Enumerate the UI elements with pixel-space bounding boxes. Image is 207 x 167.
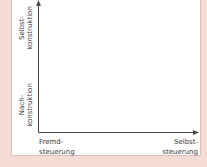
label-line: konstruktion bbox=[26, 83, 34, 127]
y-axis-label-selbstkonstruktion: Selbst- konstruktion bbox=[18, 6, 34, 50]
y-axis-arrowhead bbox=[36, 0, 41, 6]
label-line: Fremd- bbox=[39, 137, 75, 147]
label-line: konstruktion bbox=[26, 6, 34, 50]
x-axis-label-fremdsteuerung: Fremd- steuerung bbox=[39, 137, 75, 157]
x-axis-label-selbststeuerung: Selbst- steuerung bbox=[162, 137, 198, 157]
label-line: Selbst- bbox=[162, 137, 198, 147]
label-line: steuerung bbox=[39, 147, 75, 157]
label-line: steuerung bbox=[162, 147, 198, 157]
label-line: Nach- bbox=[18, 83, 26, 127]
y-axis-label-nachkonstruktion: Nach- konstruktion bbox=[18, 83, 34, 127]
x-axis-arrowhead bbox=[193, 130, 199, 135]
label-line: Selbst- bbox=[18, 6, 26, 50]
